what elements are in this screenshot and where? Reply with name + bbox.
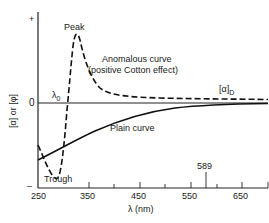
x-tick-250: 250 <box>31 191 46 201</box>
lambda0-subscript: 0 <box>57 95 61 102</box>
x-axis-title: λ (nm) <box>128 204 154 214</box>
y-minus-label: – <box>27 181 32 191</box>
anomalous-curve-label: Anomalous curve (positive Cotton effect) <box>88 54 178 76</box>
alphaD-symbol: [α] <box>219 84 229 94</box>
plain-curve-label: Plain curve <box>110 123 155 133</box>
x-ticks <box>89 172 268 188</box>
x-tick-650: 650 <box>233 191 248 201</box>
anomalous-line2: (positive Cotton effect) <box>88 65 178 76</box>
peak-label: Peak <box>64 22 85 32</box>
alphaD-subscript: D <box>229 89 234 96</box>
marker-589-label: 589 <box>197 161 212 171</box>
chart-canvas <box>0 0 269 223</box>
x-tick-350: 350 <box>80 191 95 201</box>
anomalous-line1: Anomalous curve <box>88 54 178 65</box>
x-tick-450: 450 <box>131 191 146 201</box>
y-axis-title: [α] or [φ] <box>8 81 18 141</box>
lambda0-label: λ0 <box>52 90 60 102</box>
trough-label: Trough <box>44 174 72 184</box>
y-plus-label: + <box>29 14 34 24</box>
x-tick-550: 550 <box>182 191 197 201</box>
alphaD-label: [α]D <box>219 84 234 96</box>
y-zero-label: 0 <box>29 97 35 108</box>
